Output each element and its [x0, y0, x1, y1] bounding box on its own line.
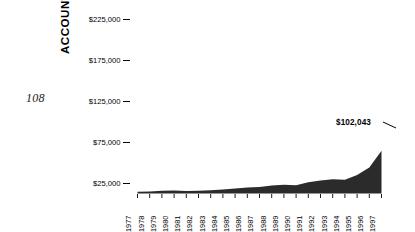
x-axis-tick-label: 1989 — [271, 202, 280, 232]
x-axis-tick-labels: 1977197819791980198119821983198419851986… — [0, 199, 415, 232]
x-axis-tick-label: 1984 — [210, 202, 219, 232]
x-axis-tick-label: 1996 — [356, 202, 365, 232]
x-axis-tick-label: 1986 — [234, 202, 243, 232]
x-axis-tick-label: 1979 — [149, 202, 158, 232]
x-axis-tick-label: 1994 — [332, 202, 341, 232]
x-axis-tick-label: 1995 — [344, 202, 353, 232]
area-series — [138, 151, 382, 194]
x-axis-tick-marks — [138, 194, 382, 198]
x-axis-tick-label: 1978 — [137, 202, 146, 232]
x-axis-tick-label: 1980 — [161, 202, 170, 232]
x-axis-tick-label: 1993 — [320, 202, 329, 232]
x-axis-tick-label: 1985 — [222, 202, 231, 232]
x-axis-tick-label: 1982 — [185, 202, 194, 232]
x-axis-tick-label: 1983 — [198, 202, 207, 232]
x-axis-tick-label: 1991 — [295, 202, 304, 232]
x-axis-tick-label: 1990 — [283, 202, 292, 232]
chart-figure: 108 ACCOUNT VALUE $225,000 $175,000 $125… — [0, 0, 415, 232]
area-plot — [0, 0, 415, 232]
x-axis-tick-label: 1997 — [368, 202, 377, 232]
x-axis-tick-label: 1992 — [307, 202, 316, 232]
x-axis-tick-label: 1977 — [124, 202, 133, 232]
x-axis-tick-label: 1981 — [173, 202, 182, 232]
x-axis-tick-label: 1988 — [259, 202, 268, 232]
x-axis-tick-label: 1987 — [246, 202, 255, 232]
callout-leader-line — [383, 122, 396, 128]
value-callout: $102,043 — [336, 118, 371, 127]
